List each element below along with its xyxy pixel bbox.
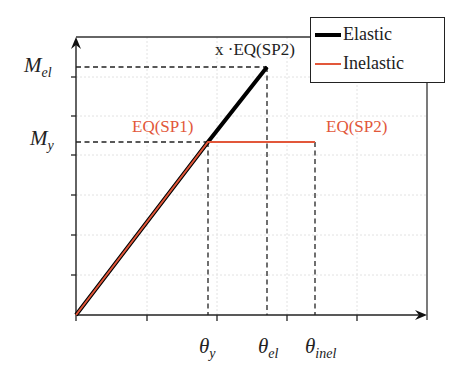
reference-lines <box>76 67 315 315</box>
theta-el-main: θ <box>258 334 268 358</box>
m-el-label: Mel <box>24 53 52 81</box>
theta-inel-label: θinel <box>305 334 336 362</box>
scaled-eq-sp2-annotation: x ·EQ(SP2) <box>215 40 295 60</box>
inelastic-series-line <box>76 142 315 315</box>
y-ticks <box>71 77 76 275</box>
m-y-label: My <box>30 126 54 154</box>
legend-label-inelastic: Inelastic <box>343 53 404 74</box>
theta-y-main: θ <box>199 334 209 358</box>
m-el-main: M <box>24 53 42 77</box>
legend-item-elastic: Elastic <box>311 24 392 45</box>
x-ticks <box>76 315 357 321</box>
m-y-main: M <box>30 126 48 150</box>
theta-inel-main: θ <box>305 334 315 358</box>
eq-sp2-annotation: EQ(SP2) <box>326 117 387 137</box>
legend-label-elastic: Elastic <box>343 24 392 45</box>
legend-item-inelastic: Inelastic <box>311 53 404 74</box>
eq-sp1-annotation: EQ(SP1) <box>132 117 193 137</box>
elastic-swatch-icon <box>315 33 341 37</box>
legend: Elastic Inelastic <box>310 17 445 83</box>
m-y-sub: y <box>48 138 54 153</box>
inelastic-swatch-icon <box>315 63 341 65</box>
m-el-sub: el <box>42 65 52 80</box>
theta-y-label: θy <box>199 334 216 362</box>
theta-inel-sub: inel <box>315 346 336 361</box>
theta-y-sub: y <box>209 346 215 361</box>
theta-el-label: θel <box>258 334 278 362</box>
theta-el-sub: el <box>268 346 278 361</box>
